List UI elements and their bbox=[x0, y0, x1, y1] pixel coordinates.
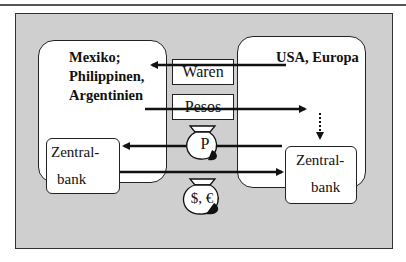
peso-bag-label: P bbox=[193, 135, 217, 153]
dollar-euro-bag-label: $, € bbox=[185, 190, 219, 207]
arrows-layer bbox=[0, 0, 406, 262]
